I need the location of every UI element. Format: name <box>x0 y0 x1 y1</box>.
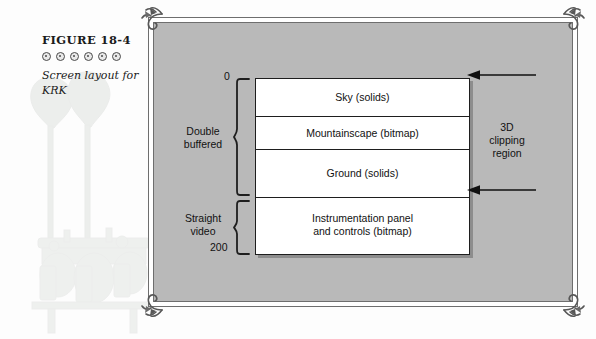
group-label-double-buffered: Double buffered <box>172 125 234 151</box>
layout-band-sky: Sky (solids) <box>256 79 469 117</box>
scale-label-bottom: 200 <box>210 241 228 253</box>
curly-brace-icon <box>233 77 251 197</box>
circle-dot-ornament-icon <box>56 52 65 61</box>
layout-band-instrumentation: Instrumentation panel and controls (bitm… <box>256 198 469 252</box>
circle-dot-ornament-icon <box>98 52 107 61</box>
circle-dot-ornament-icon <box>84 52 93 61</box>
layout-band-label: Mountainscape (bitmap) <box>306 127 419 140</box>
layout-band-ground: Ground (solids) <box>256 150 469 198</box>
antique-lab-apparatus-watermark <box>18 70 168 335</box>
group-label-line-1: Straight <box>172 212 234 225</box>
group-label-line-1: Double <box>172 125 234 138</box>
annotation-3d-clipping-region: 3D clipping region <box>471 121 543 160</box>
screen-layout-stack: Sky (solids) Mountainscape (bitmap) Grou… <box>255 78 470 255</box>
annotation-line-3: region <box>471 147 543 160</box>
caption-ornament-row <box>42 52 152 61</box>
figure-number: FIGURE 18-4 <box>42 33 152 47</box>
annotation-line-2: clipping <box>471 134 543 147</box>
figure-caption-text: Screen layout for KRK <box>42 68 152 98</box>
layout-band-label-line-2: and controls (bitmap) <box>312 225 413 238</box>
annotation-line-1: 3D <box>471 121 543 134</box>
figure-frame: 0 200 Double buffered Straight video Sky… <box>148 17 578 307</box>
arrow-left-icon <box>466 183 538 197</box>
curly-brace-icon <box>233 199 251 256</box>
figure-caption: FIGURE 18-4 Screen layout for KRK <box>42 33 152 98</box>
circle-dot-ornament-icon <box>112 52 121 61</box>
group-label-straight-video: Straight video <box>172 212 234 238</box>
layout-band-label: Sky (solids) <box>335 91 389 104</box>
figure-page: FIGURE 18-4 Screen layout for KRK <box>0 0 596 339</box>
arrow-left-icon <box>466 68 538 82</box>
circle-dot-ornament-icon <box>42 52 51 61</box>
group-label-line-2: buffered <box>172 138 234 151</box>
group-label-line-2: video <box>172 225 234 238</box>
scale-label-top: 0 <box>224 70 230 82</box>
layout-band-label-line-1: Instrumentation panel <box>312 212 413 225</box>
layout-band-mountainscape: Mountainscape (bitmap) <box>256 117 469 150</box>
layout-band-label: Ground (solids) <box>327 167 399 180</box>
circle-dot-ornament-icon <box>70 52 79 61</box>
